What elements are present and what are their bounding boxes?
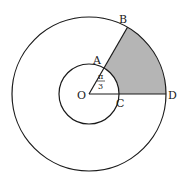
label-O: O [77, 89, 86, 102]
concentric-circles-diagram: B A O C D π 3 [0, 0, 186, 179]
angle-label: π 3 [97, 72, 105, 91]
label-D: D [168, 89, 177, 102]
angle-denominator: 3 [98, 82, 103, 91]
label-C: C [116, 97, 124, 110]
shaded-sector-ABDC [104, 27, 166, 94]
label-B: B [119, 13, 127, 26]
angle-numerator: π [98, 72, 103, 81]
label-A: A [92, 54, 102, 67]
